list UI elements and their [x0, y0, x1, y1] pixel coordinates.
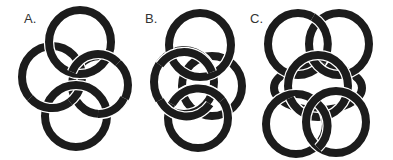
panel-c-rings	[266, 13, 369, 154]
rings-diagram: .r { fill: none; stroke: #1c1c1c; stroke…	[0, 0, 393, 160]
panel-b-rings	[154, 13, 242, 148]
ring-b-top	[169, 13, 231, 77]
panel-a-rings	[22, 10, 128, 147]
